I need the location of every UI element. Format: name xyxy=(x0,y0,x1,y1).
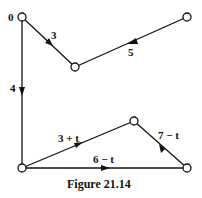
network-diagram: 0 3 5 4 3 + t 7 − t 6 − t Figure 21.14 xyxy=(0,0,202,198)
edge-a-d-label: 4 xyxy=(10,82,16,94)
arrow-a-d-icon xyxy=(19,87,25,96)
edge-a-b-label: 3 xyxy=(51,29,57,41)
figure-caption: Figure 21.14 xyxy=(67,177,131,191)
node-c xyxy=(183,13,191,21)
edge-f-e-label: 7 − t xyxy=(158,129,179,141)
edge-d-f-label: 6 − t xyxy=(93,153,114,165)
node-b xyxy=(71,63,79,71)
node-e xyxy=(130,117,138,125)
edge-c-b-label: 5 xyxy=(128,46,134,58)
arrow-d-f-icon xyxy=(101,165,110,171)
node-f xyxy=(183,164,191,172)
node-a-label: 0 xyxy=(8,11,14,23)
node-a xyxy=(18,13,26,21)
edge-d-e-label: 3 + t xyxy=(58,132,79,144)
node-d xyxy=(18,164,26,172)
